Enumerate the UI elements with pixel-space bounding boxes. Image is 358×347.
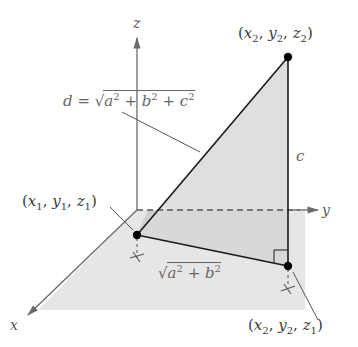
x-axis-label: x bbox=[10, 318, 18, 332]
base-formula-label: √a2 + b2 bbox=[158, 262, 221, 282]
label-point-p3: (x2, y2, z1) bbox=[248, 318, 323, 336]
point-p3 bbox=[284, 262, 292, 270]
point-p2 bbox=[284, 53, 292, 61]
point-p1 bbox=[133, 231, 141, 239]
d-leader-line bbox=[122, 112, 200, 152]
y-axis-label: y bbox=[322, 203, 330, 217]
label-point-p1: (x1, y1, z1) bbox=[22, 194, 97, 212]
label-point-p2: (x2, y2, z2) bbox=[238, 26, 313, 44]
diagram-canvas bbox=[0, 0, 358, 347]
right-triangle bbox=[137, 57, 288, 266]
distance-3d-diagram: z y x (x2, y2, z2) (x1, y1, z1) (x2, y2,… bbox=[0, 0, 358, 347]
distance-formula-label: d = √a2 + b2 + c2 bbox=[63, 90, 195, 110]
side-c-label: c bbox=[296, 149, 304, 164]
z-axis-label: z bbox=[133, 16, 140, 30]
